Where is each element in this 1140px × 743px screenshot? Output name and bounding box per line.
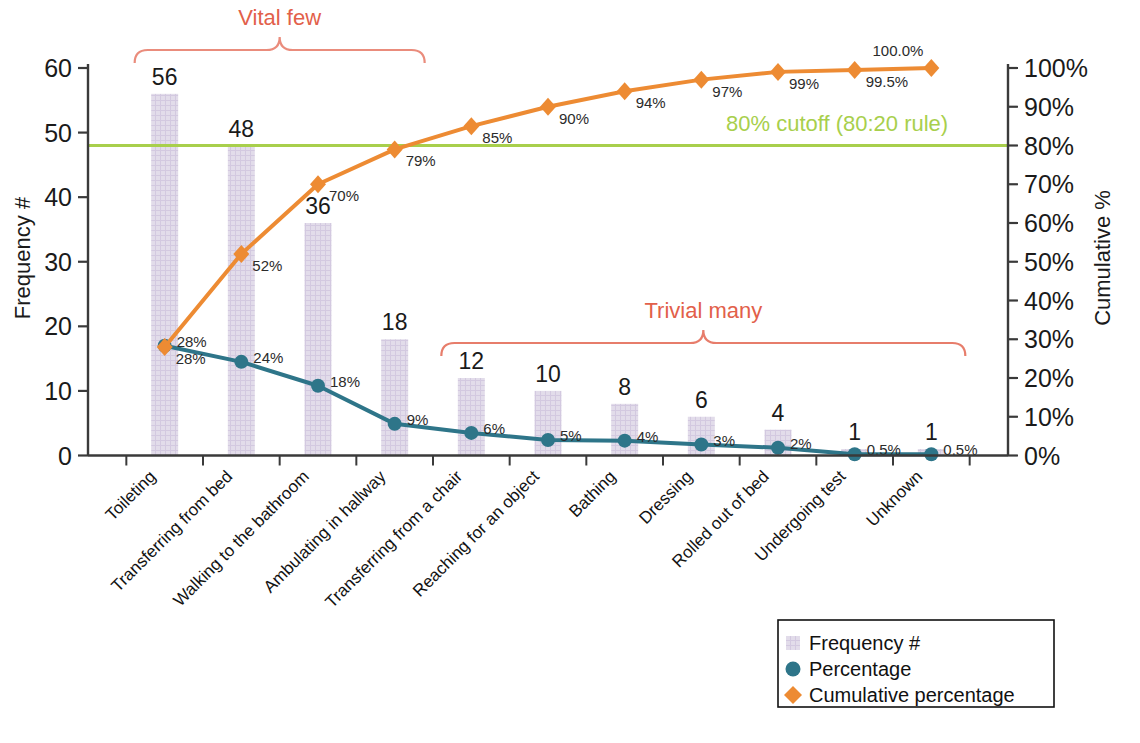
right-axis-tick-label: 0% xyxy=(1024,442,1060,470)
cumulative-point-label: 28% xyxy=(176,350,206,367)
right-axis-tick-label: 50% xyxy=(1024,248,1074,276)
percentage-point-label: 6% xyxy=(483,420,505,437)
cumulative-point-label: 100.0% xyxy=(872,42,923,59)
bar-value-label: 48 xyxy=(229,116,255,142)
left-axis-tick-label: 0 xyxy=(58,442,72,470)
x-axis-category-label: Walking to the bathroom xyxy=(170,467,313,610)
right-axis-tick-label: 20% xyxy=(1024,364,1074,392)
percentage-point xyxy=(924,447,938,461)
percentage-point-label: 18% xyxy=(330,373,360,390)
x-axis-category-label: Toileting xyxy=(102,467,160,525)
right-axis-tick-label: 70% xyxy=(1024,170,1074,198)
percentage-point xyxy=(848,447,862,461)
percentage-point-label: 2% xyxy=(790,435,812,452)
cumulative-point xyxy=(463,117,479,135)
cumulative-point-label: 97% xyxy=(712,83,742,100)
percentage-point-label: 9% xyxy=(407,411,429,428)
legend-item-label: Percentage xyxy=(809,658,911,680)
right-axis-tick-label: 90% xyxy=(1024,93,1074,121)
percentage-point xyxy=(311,379,325,393)
cumulative-point-label: 85% xyxy=(482,129,512,146)
bar-value-label: 36 xyxy=(305,193,331,219)
left-axis-tick-label: 20 xyxy=(44,312,72,340)
x-axis-category-label: Transferring from a chair xyxy=(322,467,467,612)
cumulative-point-label: 70% xyxy=(329,187,359,204)
left-axis-ticks: 0102030405060 xyxy=(44,54,88,470)
pareto-chart-figure: 80% cutoff (80:20 rule) 28%24%18%9%6%5%4… xyxy=(0,0,1140,743)
square-swatch xyxy=(786,636,800,650)
bar-value-label: 1 xyxy=(848,419,861,445)
bar xyxy=(458,378,485,456)
bars-group xyxy=(151,94,945,456)
x-axis-category-label: Bathing xyxy=(565,467,619,521)
percentage-point xyxy=(771,441,785,455)
percentage-point-label: 24% xyxy=(253,349,283,366)
chart-legend: Frequency #PercentageCumulative percenta… xyxy=(778,620,1054,707)
right-axis-tick-label: 40% xyxy=(1024,287,1074,315)
bar xyxy=(151,94,178,456)
bar xyxy=(381,339,408,455)
legend-item-label: Frequency # xyxy=(809,632,921,654)
cumulative-point-label: 99.5% xyxy=(866,73,909,90)
circle-marker xyxy=(786,662,801,677)
percentage-point-label: 4% xyxy=(637,428,659,445)
bar-value-label: 6 xyxy=(695,387,708,413)
right-axis-tick-label: 100% xyxy=(1024,54,1088,82)
legend-item-label: Cumulative percentage xyxy=(809,684,1015,706)
cumulative-series-group: 28%52%70%79%85%90%94%97%99%99.5%100.0% xyxy=(157,42,940,367)
percentage-point xyxy=(694,438,708,452)
cumulative-point-label: 79% xyxy=(406,152,436,169)
bar xyxy=(305,223,332,456)
left-axis-tick-label: 30 xyxy=(44,248,72,276)
bar-value-label: 1 xyxy=(925,419,938,445)
percentage-point xyxy=(388,417,402,431)
pareto-chart-svg: 80% cutoff (80:20 rule) 28%24%18%9%6%5%4… xyxy=(0,0,1140,743)
bar xyxy=(228,146,255,456)
cumulative-point xyxy=(540,98,556,116)
cutoff-line-label: 80% cutoff (80:20 rule) xyxy=(726,111,948,136)
y-axis-title: Frequency # xyxy=(10,196,35,319)
cumulative-point-label: 94% xyxy=(636,94,666,111)
percentage-point-label: 3% xyxy=(713,432,735,449)
right-axis-tick-label: 80% xyxy=(1024,132,1074,160)
vital-few-annotation: Vital few xyxy=(135,5,425,63)
cumulative-point-label: 99% xyxy=(789,75,819,92)
cumulative-point xyxy=(617,82,633,100)
bar-value-label: 12 xyxy=(459,348,485,374)
percentage-point-label: 5% xyxy=(560,427,582,444)
trivial-many-annotation: Trivial many xyxy=(441,298,965,356)
cumulative-point-label: 52% xyxy=(252,257,282,274)
bar xyxy=(611,404,638,456)
percentage-point xyxy=(464,426,478,440)
right-axis-tick-label: 10% xyxy=(1024,403,1074,431)
left-axis-tick-label: 40 xyxy=(44,183,72,211)
percentage-point-label: 28% xyxy=(177,333,207,350)
left-axis-tick-label: 10 xyxy=(44,377,72,405)
left-axis-tick-label: 50 xyxy=(44,119,72,147)
left-axis-tick-label: 60 xyxy=(44,54,72,82)
x-axis-category-label: Dressing xyxy=(635,467,696,528)
percentage-point xyxy=(541,433,555,447)
bar-value-label: 8 xyxy=(618,374,631,400)
right-axis-tick-label: 60% xyxy=(1024,209,1074,237)
percentage-point xyxy=(618,434,632,448)
x-axis-ticks xyxy=(126,456,969,466)
bar-value-label: 56 xyxy=(152,64,178,90)
percentage-point xyxy=(234,355,248,369)
bar-value-label: 4 xyxy=(772,400,785,426)
x-axis-category-labels: ToiletingTransferring from bedWalking to… xyxy=(102,467,926,612)
x-axis-category-label: Reaching for an object xyxy=(409,467,543,601)
cumulative-point xyxy=(387,140,403,158)
cumulative-point xyxy=(693,71,709,89)
x-axis-category-label: Unknown xyxy=(863,467,927,531)
cumulative-point xyxy=(923,59,939,77)
trivial-many-label: Trivial many xyxy=(644,298,762,323)
cumulative-point xyxy=(847,61,863,79)
cumulative-point-label: 90% xyxy=(559,110,589,127)
cumulative-point xyxy=(770,63,786,81)
right-axis-tick-label: 30% xyxy=(1024,325,1074,353)
bar-value-label: 18 xyxy=(382,309,408,335)
bar-value-label: 10 xyxy=(535,361,561,387)
y2-axis-title: Cumulative % xyxy=(1090,190,1115,326)
vital-few-label: Vital few xyxy=(238,5,321,30)
